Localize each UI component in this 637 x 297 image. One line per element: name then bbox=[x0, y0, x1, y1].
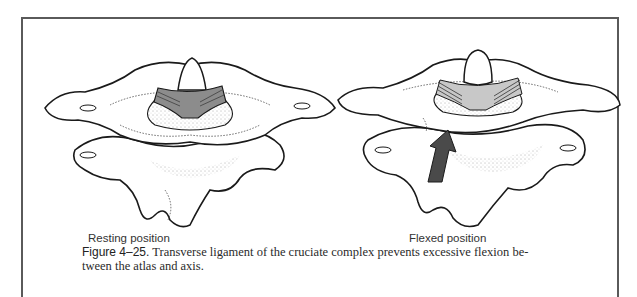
caption-line-2: tween the atlas and axis. bbox=[82, 259, 204, 273]
figure-caption: Figure 4–25. Transverse ligament of the … bbox=[82, 245, 582, 273]
vertebrae-flexed-drawing bbox=[328, 30, 628, 230]
illustration-resting bbox=[40, 30, 340, 230]
illustration-flexed bbox=[328, 30, 628, 230]
caption-line-1: Transverse ligament of the cruciate comp… bbox=[149, 245, 528, 259]
figure-number: Figure 4–25. bbox=[82, 245, 149, 259]
panel-label-flexed: Flexed position bbox=[409, 232, 486, 244]
panel-label-resting: Resting position bbox=[88, 232, 170, 244]
vertebrae-resting-drawing bbox=[40, 30, 340, 230]
